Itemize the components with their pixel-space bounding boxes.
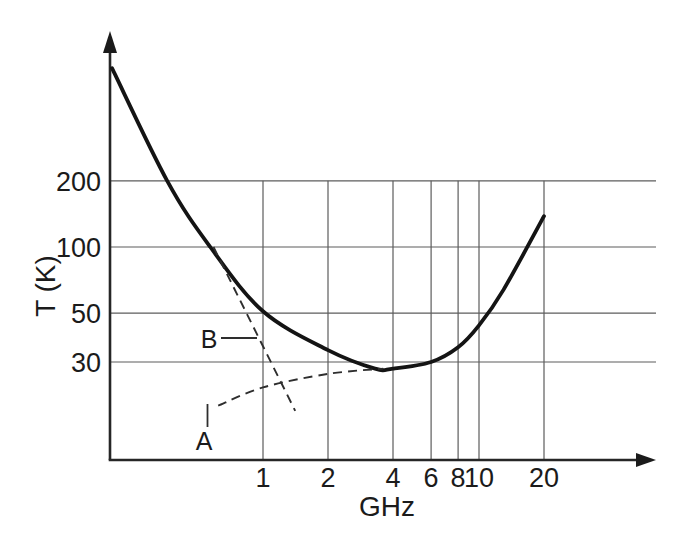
y-tick-30: 30 — [71, 348, 101, 378]
x-tick-4: 4 — [385, 463, 400, 493]
annotation-label-A: A — [196, 427, 213, 455]
noise-temperature-figure: 2001005030124681020BA T (K) GHz — [0, 0, 687, 545]
series-B — [214, 247, 296, 411]
x-tick-20: 20 — [529, 463, 559, 493]
chart-canvas: 2001005030124681020BA — [0, 0, 687, 545]
y-axis-arrow-icon — [103, 31, 117, 53]
y-tick-100: 100 — [56, 233, 101, 263]
x-tick-1: 1 — [255, 463, 270, 493]
x-axis-arrow-icon — [636, 453, 656, 467]
y-tick-200: 200 — [56, 167, 101, 197]
x-tick-6: 6 — [424, 463, 439, 493]
annotation-label-B: B — [201, 325, 218, 353]
y-axis-label: T (K) — [30, 255, 62, 317]
x-axis-label: GHz — [359, 491, 415, 523]
y-tick-50: 50 — [71, 299, 101, 329]
x-tick-10: 10 — [464, 463, 494, 493]
x-tick-2: 2 — [320, 463, 335, 493]
series-A — [218, 369, 383, 406]
